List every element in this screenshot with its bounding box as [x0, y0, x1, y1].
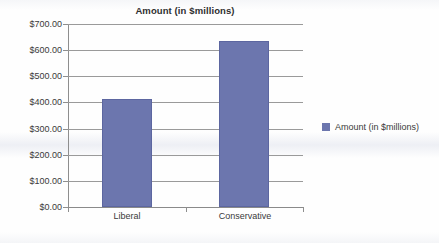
bar-chart: Amount (in $millions) $0.00$100.00$200.0… [0, 0, 439, 243]
gridline [68, 24, 303, 25]
y-axis-tick-label: $400.00 [4, 98, 62, 107]
y-axis-tick-label: $500.00 [4, 72, 62, 81]
bar-conservative [219, 41, 269, 207]
y-axis-tick-label: $300.00 [4, 125, 62, 134]
x-axis-tick [303, 207, 304, 212]
y-axis-tick-label: $600.00 [4, 46, 62, 55]
plot-area [68, 24, 303, 207]
x-axis-labels: LiberalConservative [68, 211, 303, 227]
y-axis-tick-label: $100.00 [4, 177, 62, 186]
x-axis-tick [186, 207, 187, 212]
legend-label: Amount (in $millions) [335, 122, 419, 132]
x-axis-tick-label: Liberal [68, 211, 186, 221]
scan-artifact-bottom [0, 232, 439, 243]
y-axis-tick-label: $0.00 [4, 203, 62, 212]
x-axis-tick [68, 207, 69, 212]
x-axis-tick-label: Conservative [186, 211, 304, 221]
y-axis-labels: $0.00$100.00$200.00$300.00$400.00$500.00… [0, 24, 62, 207]
chart-title: Amount (in $millions) [60, 5, 310, 16]
y-axis-tick-label: $700.00 [4, 20, 62, 29]
legend-swatch-icon [322, 123, 330, 131]
chart-legend: Amount (in $millions) [322, 122, 419, 132]
y-axis-tick-label: $200.00 [4, 151, 62, 160]
bar-liberal [102, 99, 152, 207]
